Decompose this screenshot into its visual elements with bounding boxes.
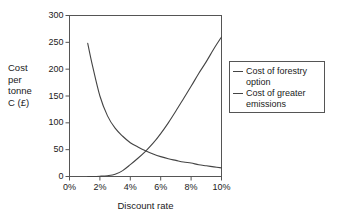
x-tick-label: 2% bbox=[86, 183, 114, 192]
y-tick-label: 250 bbox=[38, 38, 64, 47]
x-tick-label: 8% bbox=[177, 183, 205, 192]
legend-label-forestry-line-1: Cost of forestry bbox=[246, 66, 307, 77]
plot-frame bbox=[70, 16, 222, 177]
y-tick-label: 0 bbox=[38, 172, 64, 181]
legend-label-forestry-line-2: option bbox=[246, 77, 307, 88]
x-tick-label: 6% bbox=[147, 183, 175, 192]
y-tick-label: 100 bbox=[38, 118, 64, 127]
y-tick-label: 300 bbox=[38, 11, 64, 20]
legend-label-emissions-line-2: emissions bbox=[246, 99, 306, 110]
y-tick-label: 150 bbox=[38, 92, 64, 101]
x-tick-label: 4% bbox=[116, 183, 144, 192]
legend-item-emissions: Cost of greater emissions bbox=[233, 88, 321, 109]
x-tick-label: 0% bbox=[56, 183, 84, 192]
legend-label-emissions-line-1: Cost of greater bbox=[246, 88, 306, 99]
chart-container: Cost per tonne C (£) Discount rate 05010… bbox=[0, 0, 338, 218]
legend-item-forestry: Cost of forestry option bbox=[233, 66, 321, 87]
x-tick-label: 10% bbox=[208, 183, 236, 192]
chart-legend: Cost of forestry option Cost of greater … bbox=[229, 61, 325, 113]
y-tick-label: 200 bbox=[38, 65, 64, 74]
line-marker-icon bbox=[233, 66, 243, 76]
y-tick-label: 50 bbox=[38, 145, 64, 154]
line-marker-icon bbox=[233, 88, 243, 98]
